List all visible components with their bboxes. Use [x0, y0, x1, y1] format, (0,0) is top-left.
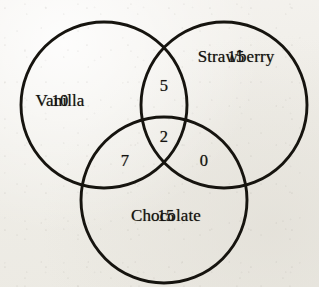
region-count-vanilla-strawberry: 5: [160, 76, 168, 96]
region-count-strawberry-chocolate: 0: [200, 151, 208, 171]
region-count-vanilla-chocolate: 7: [121, 151, 129, 171]
region-count-vanilla-only: 10: [52, 91, 69, 111]
venn-diagram-figure: Vanilla Strawberry Chocolate 10 15 15 5 …: [0, 0, 319, 287]
region-count-strawberry-only: 15: [228, 47, 245, 67]
region-count-all-three: 2: [160, 127, 168, 147]
region-count-chocolate-only: 15: [158, 206, 175, 226]
